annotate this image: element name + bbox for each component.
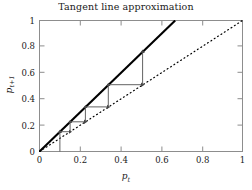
ytick-label-4: 0.8 (8, 41, 35, 51)
ytick-label-5: 1 (8, 16, 35, 26)
x-axis-label-sub: t (128, 176, 131, 184)
cobweb-staircase (60, 51, 143, 151)
chart-figure: Tangent line approximation (0, 0, 252, 190)
xtick-label-1: 0.2 (74, 155, 88, 165)
ytick-label-1: 0.2 (8, 121, 35, 131)
y-axis-label: pt+1 (4, 64, 17, 104)
chart-title: Tangent line approximation (0, 1, 252, 12)
ytick-label-0: 0 (8, 147, 35, 157)
plot-svg (39, 20, 243, 152)
xtick-label-3: 0.6 (155, 155, 169, 165)
y-axis-label-sub: t+1 (8, 75, 16, 87)
xtick-label-4: 0.8 (196, 155, 210, 165)
plot-area (39, 20, 243, 152)
xtick-label-5: 1 (240, 155, 245, 165)
xtick-label-0: 0 (37, 155, 42, 165)
xtick-label-2: 0.4 (114, 155, 128, 165)
x-axis-label: pt (0, 171, 252, 184)
y-axis-label-base: p (4, 88, 14, 94)
